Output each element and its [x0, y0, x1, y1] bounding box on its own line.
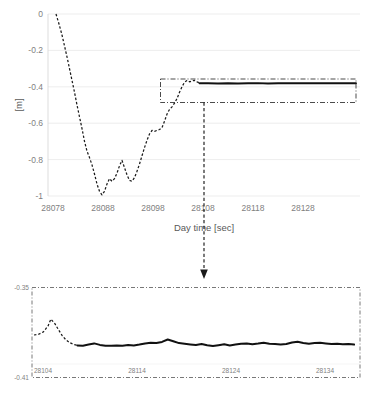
upper-xtick-0: 28078 [41, 203, 65, 213]
zoom-arrow-head [200, 270, 208, 280]
lower-panel: -0.35 -0.41 28104 28114 28124 28134 [14, 284, 360, 381]
lower-xtick-1: 28114 [128, 367, 146, 374]
upper-xtick-2: 28098 [141, 203, 165, 213]
upper-xtick-5: 28128 [291, 203, 315, 213]
upper-ytick-2: -0.4 [28, 82, 43, 92]
lower-xtick-0: 28104 [34, 367, 52, 374]
zoom-arrow [200, 103, 208, 280]
upper-ytick-1: -0.2 [28, 45, 43, 55]
figure-container: 0 -0.2 -0.4 -0.6 -0.8 -1 [m] 28078 28088… [0, 0, 368, 395]
upper-y-axis-title: [m] [13, 98, 24, 111]
upper-panel: 0 -0.2 -0.4 -0.6 -0.8 -1 [m] 28078 28088… [13, 9, 360, 233]
upper-ytick-3: -0.6 [28, 118, 43, 128]
figure-svg: 0 -0.2 -0.4 -0.6 -0.8 -1 [m] 28078 28088… [0, 0, 368, 395]
lower-ytick-1: -0.41 [14, 374, 29, 381]
upper-xtick-3: 28108 [191, 203, 215, 213]
upper-ytick-5: -1 [35, 191, 43, 201]
upper-series-dashed [56, 14, 200, 195]
lower-xtick-3: 28134 [316, 367, 334, 374]
lower-series-solid [77, 340, 354, 347]
upper-ytick-4: -0.8 [28, 155, 43, 165]
lower-ytick-0: -0.35 [14, 284, 29, 291]
lower-xtick-2: 28124 [222, 367, 240, 374]
upper-xtick-4: 28118 [241, 203, 264, 213]
upper-ytick-0: 0 [38, 9, 43, 19]
lower-series-dashed [34, 319, 77, 345]
upper-xtick-1: 28088 [91, 203, 115, 213]
